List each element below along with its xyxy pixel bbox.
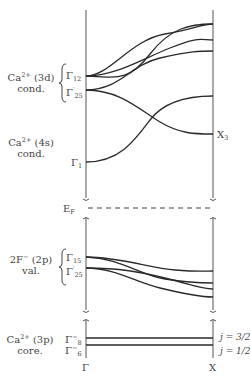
label-ca3d-line2: cond. — [6, 83, 56, 94]
label-ca3p-line2: core. — [4, 345, 56, 356]
band-ca3d — [86, 39, 213, 76]
label-f2p-line2: val. — [6, 265, 56, 276]
label-f2p-line1: 2F− (2p) — [6, 252, 56, 265]
group-brace — [59, 249, 66, 285]
level-gamma1: Γ1 — [71, 157, 82, 172]
level-x3: X3 — [217, 129, 228, 144]
level-gamma25p-val: Γ′25 — [66, 264, 83, 281]
axis-break-mark — [83, 311, 89, 313]
label-ca3d-group: Ca2+ (3d) cond. — [6, 70, 56, 94]
axis-break-mark — [210, 199, 216, 201]
label-ca3p-group: Ca2+ (3p) core. — [4, 332, 56, 356]
axis-break-mark — [210, 311, 216, 313]
band-ca4s — [86, 96, 213, 162]
band-ca3d — [86, 24, 213, 76]
label-ca4s-group: Ca2+ (4s) cond. — [6, 135, 56, 159]
label-ca4s-line1: Ca2+ (4s) — [6, 135, 56, 148]
label-ca3p-line1: Ca2+ (3p) — [4, 332, 56, 345]
label-f2p-group: 2F− (2p) val. — [6, 252, 56, 276]
label-ca3d-line1: Ca2+ (3d) — [6, 70, 56, 83]
fermi-label: EF — [63, 203, 75, 218]
point-x: X — [209, 362, 216, 373]
label-j32: j = 3/2 — [220, 332, 251, 343]
group-brace — [59, 64, 66, 102]
level-gamma25p: Γ′25 — [66, 85, 83, 102]
axis-break-mark — [83, 199, 89, 201]
point-gamma: Γ — [82, 362, 89, 373]
label-j12: j = 1/2 — [220, 346, 251, 357]
label-ca4s-line2: cond. — [6, 148, 56, 159]
level-gamma6: Γ−6 — [65, 343, 82, 360]
level-gamma12: Γ12 — [66, 70, 81, 85]
